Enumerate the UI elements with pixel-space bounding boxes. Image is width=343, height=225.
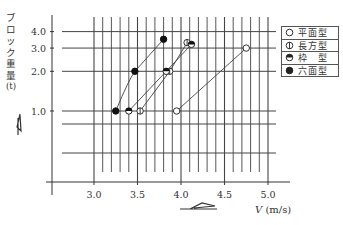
wave-sketch-icon-horizontal — [180, 203, 217, 209]
y-label-char: ク — [4, 47, 18, 59]
open-circle-marker — [173, 108, 179, 114]
series-open-circle — [173, 45, 249, 114]
half-filled-circle-icon — [285, 53, 294, 62]
y-tick-label: 4.0 — [31, 26, 46, 37]
y-label-char: ブ — [4, 12, 18, 24]
open-circle-icon — [285, 28, 294, 37]
open-circle-marker — [243, 45, 249, 51]
tick-labels: 3.03.54.04.55.01.02.03.04.0 — [31, 26, 276, 200]
x-tick-label: 3.0 — [86, 189, 101, 200]
legend-item-rectangular: 長方型 — [282, 40, 338, 53]
legend-label: 枠 型 — [298, 51, 328, 64]
x-tick-label: 5.0 — [260, 189, 275, 200]
legend-label: 平面型 — [298, 26, 328, 39]
legend-item-frame: 枠 型 — [282, 52, 338, 65]
y-label-char: 量 — [4, 70, 18, 82]
grid-lines — [62, 17, 276, 185]
block-sketch-icon-vertical — [17, 114, 21, 135]
x-label-unit: (m/s) — [265, 204, 291, 215]
x-tick-label: 4.0 — [173, 189, 188, 200]
legend-item-hexahedral: 六面型 — [282, 65, 338, 77]
y-label-char: 重 — [4, 58, 18, 70]
legend: 平面型 長方型 枠 型 六面型 — [281, 26, 339, 77]
filled-circle-icon — [285, 66, 294, 75]
y-tick-label: 3.0 — [31, 43, 46, 54]
legend-label: 長方型 — [298, 39, 328, 52]
circle-bar-icon — [285, 41, 294, 50]
y-tick-label: 1.0 — [31, 106, 46, 117]
filled-circle-marker — [132, 68, 138, 74]
legend-item-flat: 平面型 — [282, 27, 338, 40]
filled-circle-marker — [160, 36, 166, 42]
x-tick-label: 4.5 — [217, 189, 232, 200]
legend-label: 六面型 — [298, 64, 328, 77]
y-label-char: ッ — [4, 35, 18, 47]
y-axis-label: ブ ロ ッ ク 重 量 (t) — [4, 12, 18, 93]
y-tick-label: 2.0 — [31, 66, 46, 77]
y-label-unit: (t) — [4, 81, 18, 93]
filled-circle-marker — [113, 108, 119, 114]
axes — [46, 15, 290, 195]
x-axis-label: V (m/s) — [255, 204, 291, 215]
y-label-char: ロ — [4, 24, 18, 36]
x-label-variable: V — [255, 204, 262, 215]
series-half-filled-circle — [126, 41, 195, 114]
x-tick-label: 3.5 — [130, 189, 145, 200]
